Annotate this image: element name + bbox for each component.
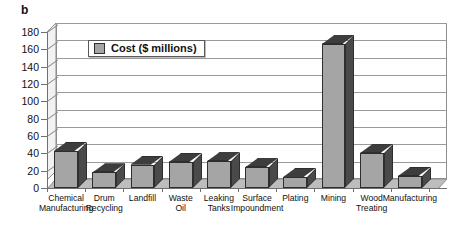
y-tick-label-40: 40 <box>13 148 39 158</box>
x-tick-2 <box>123 188 124 192</box>
y-tick-60 <box>41 136 47 137</box>
bar-landfill <box>131 165 155 188</box>
x-tick-8 <box>353 188 354 192</box>
gridline-180 <box>56 23 447 24</box>
bar-mining <box>322 44 346 188</box>
x-tick-1 <box>85 188 86 192</box>
y-tick-100 <box>41 101 47 102</box>
bar-front-face <box>398 176 422 188</box>
y-tick-180 <box>41 32 47 33</box>
y-tick-label-180: 180 <box>13 27 39 37</box>
x-label-manufacturing: Manufacturing <box>382 193 437 203</box>
y-tick-label-160: 160 <box>13 44 39 54</box>
y-tick-label-20: 20 <box>13 166 39 176</box>
x-tick-6 <box>276 188 277 192</box>
bar-plating <box>283 177 307 188</box>
gridline-80 <box>56 110 447 111</box>
gridline-60 <box>56 127 447 128</box>
bar-front-face <box>131 165 155 188</box>
gridline-140 <box>56 58 447 59</box>
bar-manufacturing <box>398 176 422 188</box>
bar-front-face <box>283 177 307 188</box>
x-tick-9 <box>391 188 392 192</box>
x-axis-category-labels: Chemical ManufacturingDrum RecyclingLand… <box>47 193 447 223</box>
bar-drum-recycling <box>92 172 116 188</box>
bar-front-face <box>360 153 384 188</box>
bar-wood-treating <box>360 153 384 188</box>
y-axis-line <box>47 32 48 189</box>
bar-side-face <box>345 35 354 188</box>
y-tick-label-0: 0 <box>13 183 39 193</box>
y-tick-label-80: 80 <box>13 114 39 124</box>
y-tick-label-60: 60 <box>13 131 39 141</box>
chart-legend: Cost ($ millions) <box>88 40 205 57</box>
gridline-100 <box>56 92 447 93</box>
y-tick-160 <box>41 49 47 50</box>
x-tick-5 <box>238 188 239 192</box>
x-tick-4 <box>200 188 201 192</box>
x-tick-0 <box>47 188 48 192</box>
legend-label-cost: Cost ($ millions) <box>111 43 197 54</box>
x-tick-7 <box>314 188 315 192</box>
bar-chemical-manufacturing <box>54 151 78 188</box>
x-tick-3 <box>162 188 163 192</box>
y-tick-40 <box>41 153 47 154</box>
bar-front-face <box>207 161 231 188</box>
bar-leaking-tanks <box>207 161 231 188</box>
bar-front-face <box>169 162 193 188</box>
bar-front-face <box>92 172 116 188</box>
bar-waste-oil <box>169 162 193 188</box>
bar-front-face <box>54 151 78 188</box>
legend-swatch-cost <box>94 43 105 54</box>
y-tick-label-100: 100 <box>13 96 39 106</box>
figure-panel-b: b 020406080100120140160180 Chemical Manu… <box>0 0 451 225</box>
y-tick-label-140: 140 <box>13 62 39 72</box>
y-tick-120 <box>41 84 47 85</box>
bar-front-face <box>245 167 269 188</box>
bar-surface-impoundment <box>245 167 269 188</box>
y-tick-label-120: 120 <box>13 79 39 89</box>
x-tick-10 <box>429 188 430 192</box>
bar-front-face <box>322 44 346 188</box>
panel-label: b <box>21 4 28 16</box>
x-axis-line <box>47 188 447 189</box>
gridline-120 <box>56 75 447 76</box>
